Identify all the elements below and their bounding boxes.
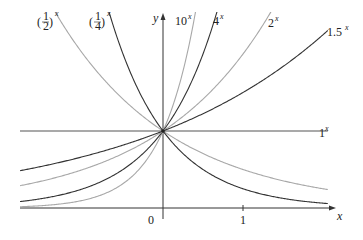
exponent: x <box>324 124 329 133</box>
exponent: x <box>344 23 349 32</box>
curve-2x <box>20 0 302 186</box>
curve-1-5x <box>20 30 328 170</box>
label-1-pow-x: 1 x <box>319 124 329 140</box>
paren-open: ( <box>89 15 93 29</box>
base: 1.5 <box>327 25 342 39</box>
exponent: x <box>219 12 224 21</box>
label-quarter-pow-x: ( 1 4 ) x <box>89 9 111 33</box>
exponent: x <box>106 9 111 18</box>
paren-close: ) <box>101 15 105 29</box>
axes <box>20 13 336 219</box>
base: 4 <box>213 14 219 28</box>
label-10-pow-x: 10 x <box>175 12 192 28</box>
exponent: x <box>274 14 279 23</box>
exponent: x <box>54 9 59 18</box>
base: 10 <box>175 14 187 28</box>
exponent: x <box>187 12 192 21</box>
y-axis-label: y <box>152 11 159 25</box>
x-axis-label: x <box>336 209 343 223</box>
x-axis-arrow-icon <box>329 206 336 211</box>
exponential-functions-chart: x y 0 1 ( 1 2 ) x ( 1 4 ) x 10 x 4 <box>0 0 363 240</box>
label-1.5-pow-x: 1.5 x <box>327 23 349 39</box>
label-2-pow-x: 2 x <box>268 14 279 30</box>
intersection-point <box>161 129 165 133</box>
y-axis-arrow-icon <box>161 13 166 20</box>
x-tick-1-label: 1 <box>240 213 246 227</box>
curves <box>20 0 328 207</box>
origin-label: 0 <box>148 213 154 227</box>
label-half-pow-x: ( 1 2 ) x <box>37 9 59 33</box>
paren-close: ) <box>49 15 53 29</box>
label-4-pow-x: 4 x <box>213 12 224 28</box>
paren-open: ( <box>37 15 41 29</box>
base: 2 <box>268 16 274 30</box>
